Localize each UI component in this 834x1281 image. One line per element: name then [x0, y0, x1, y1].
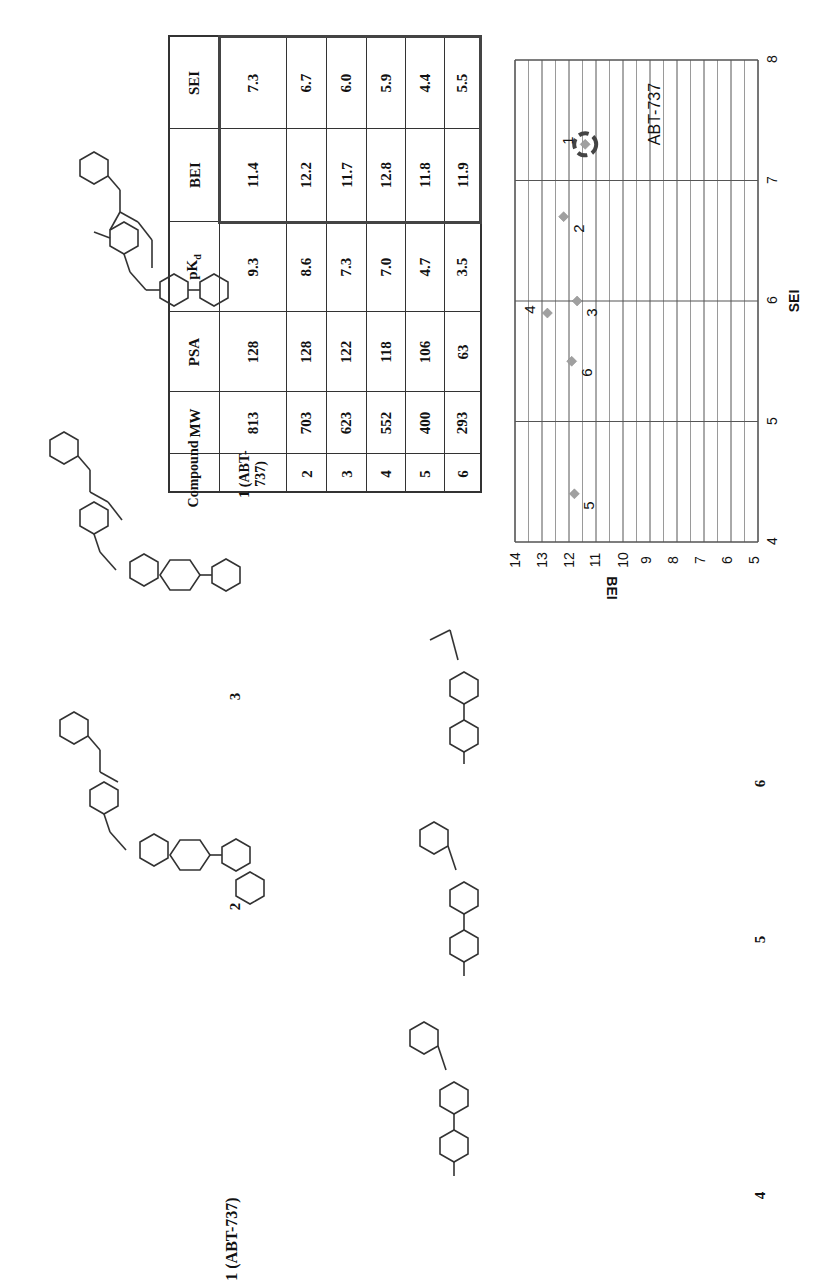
table-cell: 3	[327, 454, 367, 493]
table-cell: 4	[367, 454, 406, 493]
table-cell: 5.5	[445, 37, 480, 129]
header-psa: PSA	[170, 312, 220, 392]
data-point-2	[559, 212, 569, 222]
table-cell: 11.9	[445, 129, 480, 222]
table-cell: 12.2	[287, 129, 327, 222]
table-cell: 11.4	[220, 129, 287, 222]
sei-tick-label: 5	[764, 417, 780, 425]
table-cell: 3.5	[445, 222, 480, 312]
structure-compound-6	[430, 630, 478, 764]
table-cell: 2	[287, 454, 327, 493]
data-point-3	[572, 296, 582, 306]
header-sei: SEI	[170, 37, 220, 129]
table-cell: 122	[327, 312, 367, 392]
table-cell: 7.3	[327, 222, 367, 312]
table-cell: 400	[406, 392, 445, 454]
sei-tick-label: 7	[764, 176, 780, 184]
label-compound-5: 5	[752, 936, 769, 944]
table-cell: 623	[327, 392, 367, 454]
header-pkd: pKd	[170, 222, 220, 312]
data-table: SEI BEI pKd PSA MW Compound 7.3 11.4 9.3…	[168, 35, 482, 493]
label-compound-6: 6	[752, 780, 769, 788]
label-compound-2: 2	[227, 903, 244, 911]
table-cell: 128	[287, 312, 327, 392]
data-point-4	[542, 308, 552, 318]
header-compound: Compound	[170, 454, 220, 493]
table-cell: 5	[406, 454, 445, 493]
sei-tick-label: 8	[764, 55, 780, 63]
label-compound-3: 3	[227, 693, 244, 701]
bei-tick-label: 10	[615, 552, 631, 568]
label-compound-1: 1 (ABT-737)	[223, 1197, 241, 1280]
table-cell: 552	[367, 392, 406, 454]
bei-tick-label: 14	[507, 552, 523, 568]
table-cell: 11.8	[406, 129, 445, 222]
axis-title-sei: SEI	[786, 290, 802, 313]
chart-grid	[515, 60, 758, 542]
structure-compound-5	[420, 822, 478, 976]
bei-tick-label: 9	[638, 556, 654, 564]
bei-tick-label: 6	[719, 556, 735, 564]
bei-tick-label: 5	[746, 556, 762, 564]
table-cell: 4.4	[406, 37, 445, 129]
data-point-1	[580, 139, 590, 149]
table-cell: 6.7	[287, 37, 327, 129]
structure-compound-4	[410, 1022, 468, 1176]
table-cell: 11.7	[327, 129, 367, 222]
bei-tick-label: 12	[561, 552, 577, 568]
table-cell: 6	[445, 454, 480, 493]
table-cell: 12.8	[367, 129, 406, 222]
point-label-6: 6	[577, 369, 594, 377]
table-cell: 293	[445, 392, 480, 454]
bei-tick-label: 13	[534, 552, 550, 568]
table-cell: 128	[220, 312, 287, 392]
point-label-5: 5	[580, 501, 597, 509]
data-point-5	[569, 489, 579, 499]
bei-tick-label: 8	[665, 556, 681, 564]
table-cell: 9.3	[220, 222, 287, 312]
table-cell: 63	[445, 312, 480, 392]
axis-title-bei: BEI	[604, 576, 620, 599]
bei-tick-label: 11	[587, 553, 603, 568]
point-label-4: 4	[521, 305, 538, 313]
annotation-abt-737: ABT-737	[646, 83, 664, 145]
point-label-1: 1	[559, 137, 576, 145]
table-cell: 106	[406, 312, 445, 392]
header-bei: BEI	[170, 129, 220, 222]
table-cell: 5.9	[367, 37, 406, 129]
table-cell: 4.7	[406, 222, 445, 312]
structure-compound-1	[60, 712, 264, 904]
point-label-2: 2	[569, 224, 586, 232]
table-cell: 8.6	[287, 222, 327, 312]
table-cell: 118	[367, 312, 406, 392]
table-cell: 1 (ABT-737)	[220, 454, 287, 493]
point-label-3: 3	[583, 308, 600, 316]
bei-tick-label: 7	[692, 556, 708, 564]
sei-tick-label: 6	[764, 296, 780, 304]
table-cell: 7.0	[367, 222, 406, 312]
table-cell: 7.3	[220, 37, 287, 129]
table-cell: 703	[287, 392, 327, 454]
data-point-6	[567, 356, 577, 366]
label-compound-4: 4	[752, 1192, 769, 1200]
table-cell: 6.0	[327, 37, 367, 129]
sei-tick-label: 4	[764, 537, 780, 545]
